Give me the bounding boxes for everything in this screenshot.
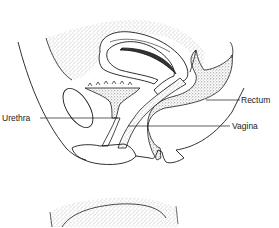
vagina-label: Vagina — [232, 122, 258, 131]
pelvis-drawing — [0, 0, 279, 227]
rectum-label: Rectum — [241, 96, 270, 105]
anatomy-diagram: Urethra Rectum Vagina — [0, 0, 279, 227]
second-diagram-partial — [50, 198, 178, 228]
urethra-label: Urethra — [2, 114, 30, 123]
rectum — [147, 50, 232, 160]
bladder-urethra — [85, 81, 140, 146]
